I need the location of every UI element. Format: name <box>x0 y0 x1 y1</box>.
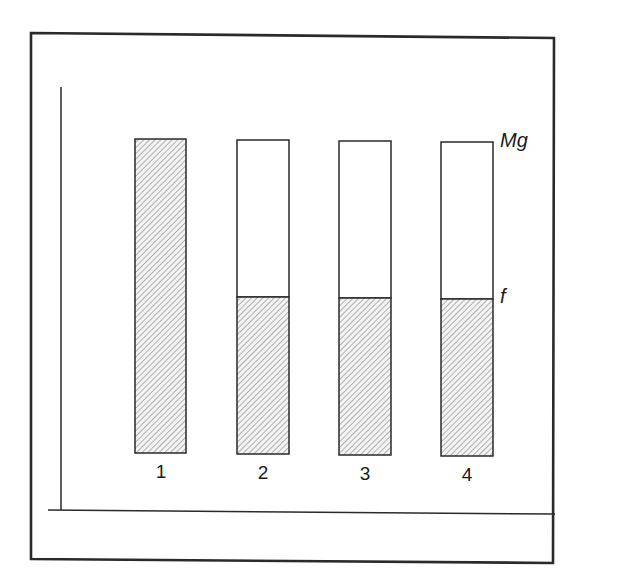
bar-2 <box>237 140 289 454</box>
bar-label-2: 2 <box>237 462 289 484</box>
label-f: f <box>500 285 506 308</box>
bar-label-4: 4 <box>441 464 493 486</box>
bar-3 <box>339 141 391 455</box>
bar-diagram <box>0 0 618 587</box>
x-axis <box>48 510 555 514</box>
bar-label-1: 1 <box>135 461 187 483</box>
bar-1 <box>135 139 186 453</box>
bar-4 <box>441 142 493 456</box>
bar-label-3: 3 <box>339 463 391 485</box>
label-mg: Mg <box>500 129 528 152</box>
